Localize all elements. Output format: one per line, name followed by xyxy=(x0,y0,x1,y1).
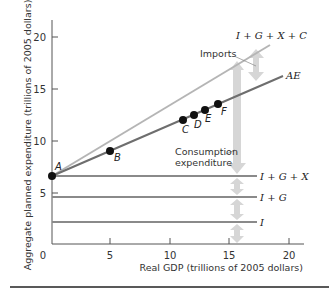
point-c-label: C xyxy=(182,124,189,135)
point-f-label: F xyxy=(221,106,227,117)
x-axis-title: Real GDP (trillions of 2005 dollars) xyxy=(140,262,304,273)
curve-label-i: I xyxy=(259,217,265,228)
x-tick-5: 5 xyxy=(107,250,113,261)
curve-label-i-g-x-c: I + G + X + C xyxy=(235,30,307,41)
investment-arrow xyxy=(230,224,244,243)
point-b-label: B xyxy=(114,152,121,163)
point-c xyxy=(179,116,187,124)
exports-arrow xyxy=(230,178,244,195)
x-tick-20: 20 xyxy=(283,250,296,261)
chart: 5 10 15 20 0 5 10 15 20 Real GDP (trilli… xyxy=(0,0,329,290)
curve-label-ae: AE xyxy=(285,70,301,81)
government-arrow xyxy=(230,199,244,220)
x-tick-0: 0 xyxy=(40,250,46,261)
point-d-label: D xyxy=(194,119,202,130)
point-e-label: E xyxy=(205,113,212,124)
curve-label-i-g-x: I + G + X xyxy=(259,171,309,182)
x-ticks: 0 5 10 15 20 xyxy=(40,238,296,261)
consumption-label-line1: Consumption xyxy=(175,146,238,157)
point-a-label: A xyxy=(54,161,62,172)
y-tick-15: 15 xyxy=(33,84,46,95)
point-a xyxy=(48,172,56,180)
y-axis-title: Aggregate planned expenditure (trillions… xyxy=(22,0,33,270)
curve-label-i-g: I + G xyxy=(259,192,287,203)
line-ae xyxy=(52,76,283,176)
point-d xyxy=(190,111,198,119)
consumption-label-line2: expenditure xyxy=(175,157,232,168)
imports-label: Imports xyxy=(200,48,237,59)
y-tick-10: 10 xyxy=(33,136,46,147)
x-tick-15: 15 xyxy=(223,250,236,261)
point-b xyxy=(106,147,114,155)
y-tick-20: 20 xyxy=(33,32,46,43)
x-tick-10: 10 xyxy=(164,250,177,261)
y-tick-5: 5 xyxy=(40,188,46,199)
